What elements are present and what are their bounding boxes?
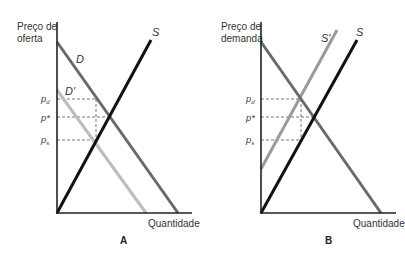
pstar-label: p*	[245, 112, 255, 123]
pstar-label: p*	[40, 112, 50, 123]
panel-a: Preço de oferta D D' S pd p* ps Quantida…	[17, 21, 200, 246]
pd-label: pd	[245, 93, 255, 105]
pd-label: pd	[40, 93, 50, 105]
y-axis-title-line1: Preço de	[17, 21, 57, 32]
supply-label: S	[152, 26, 160, 38]
supply-label: S	[356, 26, 364, 38]
y-axis-title-line2: oferta	[17, 33, 43, 44]
supply-curve	[57, 40, 151, 213]
ps-label: ps	[245, 134, 254, 146]
ps-label: ps	[40, 134, 49, 146]
x-axis-title: Quantidade	[353, 218, 405, 229]
demand-curve	[57, 42, 178, 213]
y-axis-title-line2: demanda	[221, 33, 263, 44]
demand-shifted-label: D'	[65, 85, 76, 97]
panel-b: Preço de demanda S' S pd p* ps Quantidad…	[221, 21, 405, 246]
x-axis-title: Quantidade	[148, 218, 200, 229]
panel-label: B	[325, 235, 332, 246]
supply-shifted-label: S'	[321, 32, 331, 44]
panel-label: A	[120, 235, 127, 246]
demand-label: D	[76, 53, 84, 65]
tax-incidence-diagram: Preço de oferta D D' S pd p* ps Quantida…	[0, 0, 405, 253]
y-axis-title-line1: Preço de	[221, 21, 261, 32]
demand-curve	[261, 42, 381, 213]
supply-curve	[261, 40, 357, 213]
